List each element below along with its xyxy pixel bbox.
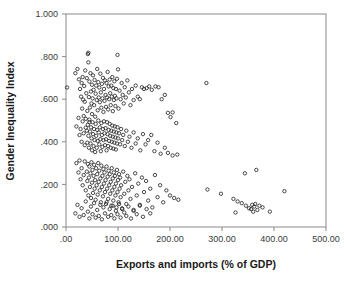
x-tick-label: 500.00 bbox=[312, 234, 340, 244]
chart-screenshot: .00100.00200.00300.00400.00500.00 .000.2… bbox=[0, 0, 344, 282]
y-tick-label: .000 bbox=[40, 222, 58, 232]
x-tick-label: 400.00 bbox=[260, 234, 288, 244]
y-axis-title: Gender Inequality Index bbox=[4, 61, 16, 180]
y-tick-label: .800 bbox=[40, 52, 58, 62]
y-tick-label: .600 bbox=[40, 94, 58, 104]
scatter-chart: .00100.00200.00300.00400.00500.00 .000.2… bbox=[0, 0, 344, 282]
x-axis-title: Exports and imports (% of GDP) bbox=[116, 258, 276, 270]
x-tick-label: .00 bbox=[60, 234, 73, 244]
y-tick-label: .400 bbox=[40, 137, 58, 147]
y-tick-label: 1.000 bbox=[35, 9, 58, 19]
x-tick-label: 200.00 bbox=[156, 234, 184, 244]
x-tick-label: 100.00 bbox=[104, 234, 132, 244]
x-tick-label: 300.00 bbox=[208, 234, 236, 244]
y-tick-label: .200 bbox=[40, 180, 58, 190]
